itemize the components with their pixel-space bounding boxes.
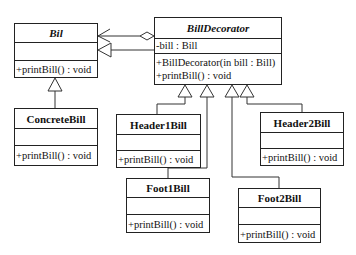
attributes-compartment — [15, 43, 97, 61]
attributes-compartment — [15, 129, 97, 146]
attribute: -bill : Bill — [155, 39, 281, 54]
generalization-arrowhead-icon — [240, 85, 254, 97]
class-name: BillDecorator — [155, 18, 281, 39]
aggregation-diamond-icon — [140, 32, 154, 40]
class-name: ConcreteBill — [15, 109, 97, 129]
generalization-arrowhead-icon — [98, 43, 111, 57]
method: +printBill() : void — [127, 215, 209, 231]
method: +printBill() : void — [15, 61, 97, 76]
method: +BillDecorator(in bill : Bill) — [155, 54, 281, 69]
class-concrete-bill: ConcreteBill +printBill() : void — [14, 108, 98, 166]
attributes-compartment — [239, 208, 320, 225]
class-header2-bill: Header2Bill +printBill() : void — [260, 112, 344, 166]
class-foot1-bill: Foot1Bill +printBill() : void — [126, 178, 210, 233]
class-foot2-bill: Foot2Bill +printBill() : void — [238, 188, 321, 243]
method: +printBill() : void — [117, 151, 200, 166]
attributes-compartment — [127, 198, 209, 215]
generalization-arrowhead-icon — [178, 85, 192, 97]
class-name: Header2Bill — [261, 113, 343, 133]
class-header1-bill: Header1Bill +printBill() : void — [116, 114, 201, 168]
method: +printBill() : void — [15, 146, 97, 162]
class-name: Bil — [15, 24, 97, 43]
attributes-compartment — [261, 133, 343, 149]
attributes-compartment — [117, 135, 200, 151]
class-bil: Bil +printBill() : void — [14, 23, 98, 78]
class-name: Header1Bill — [117, 115, 200, 135]
method: +printBill() : void — [155, 69, 281, 82]
method: +printBill() : void — [261, 149, 343, 164]
class-bill-decorator: BillDecorator -bill : Bill +BillDecorato… — [154, 17, 282, 85]
generalization-arrowhead-icon — [48, 78, 62, 91]
class-name: Foot1Bill — [127, 179, 209, 198]
class-name: Foot2Bill — [239, 189, 320, 208]
method: +printBill() : void — [239, 225, 320, 241]
generalization-arrowhead-icon — [225, 85, 239, 97]
generalization-arrowhead-icon — [200, 85, 214, 97]
